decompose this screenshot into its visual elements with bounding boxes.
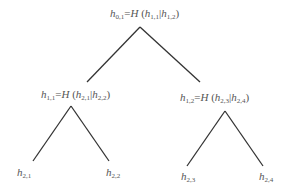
leaf-h21: h2,1 [17,167,31,178]
h12-node-label: h1,2=H (h2,3|h2,4) [180,92,249,103]
close-paren: ) [246,91,250,103]
left-child-sub: 2,3 [220,97,229,105]
leaf-h23: h2,3 [181,171,195,182]
h11-sub: 1,1 [47,94,56,102]
edge-h11-to-h22 [71,106,109,161]
leaf-h22: h2,2 [106,167,120,178]
right-child-sub: 2,2 [98,94,107,102]
h11-node-label: h1,1=H (h2,1|h2,2) [41,89,110,100]
root-sub: 0,1 [116,13,125,21]
right-child-sub: 2,4 [237,97,246,105]
leaf-sub: 2,1 [23,172,32,180]
close-paren: ) [176,7,180,19]
root-node-label: h0,1=H (h1,1|h1,2) [110,8,179,19]
edge-root-to-h11 [87,27,140,82]
edge-h12-to-h23 [187,111,225,166]
edge-h11-to-h21 [33,106,71,161]
leaf-sub: 2,3 [187,176,196,184]
edge-root-to-h12 [140,27,200,82]
left-child-sub: 1,1 [150,13,159,21]
h12-sub: 1,2 [186,97,195,105]
left-child-sub: 2,1 [81,94,90,102]
right-child-sub: 1,2 [167,13,176,21]
edge-h12-to-h24 [225,111,263,166]
leaf-h24: h2,4 [259,171,273,182]
leaf-sub: 2,2 [112,172,121,180]
leaf-sub: 2,4 [265,176,274,184]
close-paren: ) [107,88,111,100]
